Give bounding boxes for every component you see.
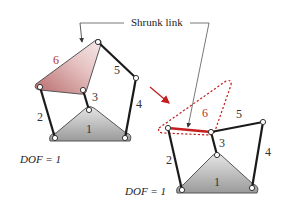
right-link-5-label: 5 — [236, 107, 242, 121]
joint — [80, 87, 85, 92]
right-dof-label: DOF = 1 — [124, 185, 166, 197]
joint — [52, 135, 57, 140]
callout-leader-left-arrow — [80, 23, 82, 42]
left-link-4-label: 4 — [136, 97, 142, 111]
left-link-4 — [125, 78, 136, 138]
joint — [260, 119, 265, 124]
left-link-6-label: 6 — [53, 53, 59, 67]
left-mechanism: 6 5 3 2 1 4 DOF = 1 — [19, 39, 142, 165]
right-link-5 — [211, 122, 263, 132]
right-link-6-label: 6 — [202, 106, 208, 120]
left-link-3 — [83, 90, 89, 110]
joint — [86, 107, 91, 112]
right-link-3 — [211, 132, 217, 155]
right-mechanism: 6 5 3 2 1 4 DOF = 1 — [124, 81, 271, 198]
left-link-5-label: 5 — [114, 63, 120, 77]
shrunk-link-callout: Shrunk link — [80, 16, 209, 127]
right-link-4-label: 4 — [265, 145, 271, 159]
joint — [37, 84, 42, 89]
right-shrunk-link — [168, 128, 211, 132]
joint — [249, 185, 254, 190]
right-link-4 — [252, 122, 263, 188]
left-link-3-label: 3 — [92, 90, 98, 104]
left-dof-label: DOF = 1 — [19, 153, 61, 165]
right-link-3-label: 3 — [219, 136, 225, 150]
joint — [214, 152, 219, 157]
diagram-canvas: 6 5 3 2 1 4 DOF = 1 Shrunk link — [0, 0, 285, 207]
left-link-2-label: 2 — [37, 110, 43, 124]
joint — [95, 39, 100, 44]
joint — [208, 129, 213, 134]
right-link-2-label: 2 — [166, 153, 172, 167]
right-link-1-label: 1 — [214, 175, 220, 189]
joint — [165, 125, 170, 130]
joint — [133, 75, 138, 80]
transform-arrow — [150, 87, 169, 103]
joint — [179, 187, 184, 192]
left-link-1-label: 1 — [86, 122, 92, 136]
left-link-6 — [35, 40, 101, 95]
callout-text: Shrunk link — [131, 16, 183, 28]
joint — [122, 135, 127, 140]
